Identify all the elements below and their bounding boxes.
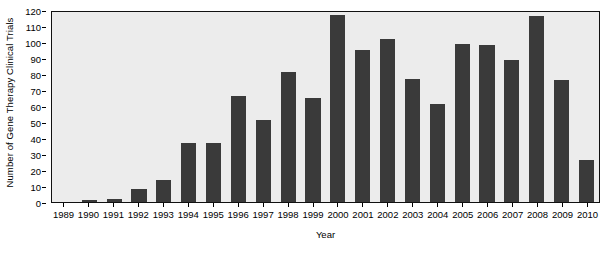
- bar-slot: [524, 12, 549, 202]
- bar: [355, 50, 370, 202]
- x-axis-tick-label: 1997: [253, 209, 274, 220]
- x-axis-tick-slot: 1992: [126, 203, 151, 227]
- x-axis-tick-label: 1999: [302, 209, 323, 220]
- bar: [380, 39, 395, 202]
- x-axis-tick-mark: [587, 203, 588, 207]
- x-axis-tick-mark: [387, 203, 388, 207]
- bar: [455, 44, 470, 202]
- y-axis-tick-mark: [42, 43, 46, 44]
- x-axis-tick-mark: [288, 203, 289, 207]
- bar-slot: [574, 12, 599, 202]
- x-axis-tick-mark: [238, 203, 239, 207]
- x-axis-tick-slot: 2001: [350, 203, 375, 227]
- bar-slot: [450, 12, 475, 202]
- x-axis-tick-slot: 2003: [400, 203, 425, 227]
- bar: [330, 15, 345, 202]
- bar-slot: [425, 12, 450, 202]
- x-axis-tick-mark: [462, 203, 463, 207]
- x-axis-tick-slot: 1998: [276, 203, 301, 227]
- x-axis-tick-mark: [113, 203, 114, 207]
- x-axis-tick-mark: [537, 203, 538, 207]
- y-axis-tick-label: 80: [30, 70, 41, 81]
- bar-slot: [127, 12, 152, 202]
- y-axis-tick-mark: [42, 107, 46, 108]
- bar-slot: [176, 12, 201, 202]
- bar-slot: [77, 12, 102, 202]
- x-axis-tick-slot: 1989: [51, 203, 76, 227]
- y-axis-tick-label: 110: [26, 22, 41, 33]
- y-axis-tick-mark: [42, 59, 46, 60]
- y-axis-tick-label: 50: [30, 118, 41, 129]
- bar-slot: [151, 12, 176, 202]
- bar-slot: [325, 12, 350, 202]
- x-axis-tick-label: 2005: [452, 209, 473, 220]
- y-axis-title-text: Number of Gene Therapy Clinical Trials: [5, 18, 16, 188]
- bar: [256, 120, 271, 202]
- bar: [206, 143, 221, 202]
- bar: [181, 143, 196, 202]
- x-axis-tick-label: 2008: [527, 209, 548, 220]
- x-axis-tick-label: 2004: [427, 209, 448, 220]
- x-axis-tick-mark: [188, 203, 189, 207]
- x-axis-tick-label: 2000: [327, 209, 348, 220]
- bar: [579, 160, 594, 202]
- y-axis-tick-mark: [42, 27, 46, 28]
- x-axis-tick-mark: [213, 203, 214, 207]
- x-axis-tick-mark: [138, 203, 139, 207]
- x-axis-tick-label: 1995: [203, 209, 224, 220]
- bar: [156, 180, 171, 202]
- bar-slot: [276, 12, 301, 202]
- y-axis-tick-mark: [42, 139, 46, 140]
- x-axis-tick-slot: 1997: [251, 203, 276, 227]
- x-axis-tick-slot: 2010: [575, 203, 600, 227]
- x-axis-tick-slot: 1993: [151, 203, 176, 227]
- x-axis-tick-slot: 1990: [76, 203, 101, 227]
- y-axis-tick-label: 120: [25, 6, 41, 17]
- x-axis-tick-slot: 1999: [301, 203, 326, 227]
- x-axis-tick-label: 1990: [78, 209, 99, 220]
- bar-slot: [375, 12, 400, 202]
- y-axis-tick-label: 0: [36, 198, 41, 209]
- x-axis-tick-group: 1989199019911992199319941995199619971998…: [51, 203, 600, 227]
- y-axis-tick-label: 20: [30, 166, 41, 177]
- x-axis-tick-mark: [313, 203, 314, 207]
- bar: [504, 60, 519, 202]
- x-axis-tick-slot: 2002: [375, 203, 400, 227]
- x-axis-tick-label: 1993: [153, 209, 174, 220]
- x-axis-tick-label: 1991: [103, 209, 124, 220]
- x-axis-tick-label: 2002: [377, 209, 398, 220]
- x-axis-tick-slot: 2009: [550, 203, 575, 227]
- bar-slot: [201, 12, 226, 202]
- y-axis-title: Number of Gene Therapy Clinical Trials: [0, 0, 20, 205]
- x-axis-tick-mark: [63, 203, 64, 207]
- x-axis-tick-mark: [562, 203, 563, 207]
- x-axis-title: Year: [51, 229, 600, 240]
- bar: [554, 80, 569, 202]
- y-axis-tick-label: 70: [30, 86, 41, 97]
- y-axis-tick-label: 60: [30, 102, 41, 113]
- bar-slot: [102, 12, 127, 202]
- x-axis-tick-slot: 2000: [325, 203, 350, 227]
- bar: [479, 45, 494, 202]
- y-axis-tick-mark: [42, 11, 46, 12]
- y-axis-tick-mark: [42, 123, 46, 124]
- y-axis-tick-mark: [42, 171, 46, 172]
- bar: [529, 16, 544, 202]
- x-axis-tick-mark: [487, 203, 488, 207]
- y-axis-tick-label: 10: [30, 182, 41, 193]
- bar-slot: [400, 12, 425, 202]
- bar-chart-figure: Number of Gene Therapy Clinical Trials 0…: [0, 0, 612, 253]
- x-axis-tick-label: 1992: [128, 209, 149, 220]
- y-axis-tick-label: 100: [25, 38, 41, 49]
- bar: [281, 72, 296, 202]
- plot-area: [51, 11, 600, 203]
- x-axis-tick-mark: [337, 203, 338, 207]
- y-axis-tick-mark: [42, 187, 46, 188]
- x-axis-tick-mark: [412, 203, 413, 207]
- y-axis-tick-label: 30: [30, 150, 41, 161]
- bar-slot: [251, 12, 276, 202]
- y-axis-tick-label: 40: [30, 134, 41, 145]
- x-axis-tick-label: 1989: [53, 209, 74, 220]
- bar-slot: [499, 12, 524, 202]
- x-axis-tick-slot: 2004: [425, 203, 450, 227]
